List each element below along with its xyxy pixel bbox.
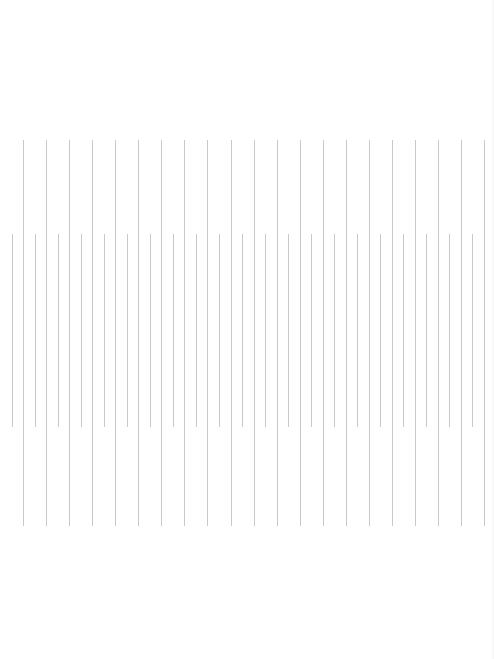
lower-line xyxy=(104,234,105,427)
lower-line xyxy=(127,234,128,427)
lower-line xyxy=(196,234,197,427)
lower-line xyxy=(311,234,312,427)
lower-line xyxy=(426,234,427,427)
lower-line xyxy=(288,234,289,427)
lower-line xyxy=(35,234,36,427)
lower-line xyxy=(380,234,381,427)
lower-line xyxy=(173,234,174,427)
lower-line xyxy=(265,234,266,427)
lower-line xyxy=(334,234,335,427)
lower-line xyxy=(472,234,473,427)
lower-line xyxy=(12,234,13,427)
lower-line xyxy=(58,234,59,427)
lower-line xyxy=(150,234,151,427)
lower-line xyxy=(357,234,358,427)
lower-line xyxy=(403,234,404,427)
lower-line xyxy=(242,234,243,427)
lower-line-set xyxy=(0,0,494,659)
lower-line xyxy=(219,234,220,427)
lower-line xyxy=(449,234,450,427)
lower-line xyxy=(81,234,82,427)
